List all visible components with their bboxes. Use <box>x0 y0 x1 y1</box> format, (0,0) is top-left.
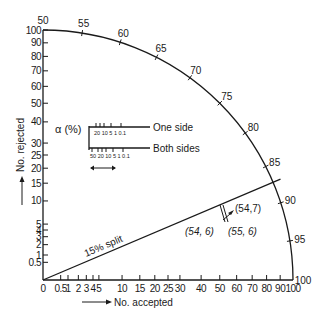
arc-tick-label: 50 <box>37 15 49 26</box>
arc-tick-label: 65 <box>155 43 167 54</box>
x-tick-label: 2 <box>76 283 82 294</box>
x-tick-label: 5 <box>96 283 102 294</box>
arc-tick-label: 90 <box>285 195 297 206</box>
x-tick-label: 10 <box>117 283 128 294</box>
y-tick-label: 20 <box>31 163 42 174</box>
x-tick-label: 25 <box>163 283 174 294</box>
x-axis-arrow-icon <box>82 300 112 305</box>
both-sides-label: Both sides <box>153 143 200 154</box>
point-label-55-6: (55, 6) <box>228 226 257 237</box>
x-tick-label: 30 <box>175 283 186 294</box>
arc-tick-label: 100 <box>295 275 312 286</box>
y-tick-label: 50 <box>31 98 42 109</box>
x-tick-label: 20 <box>150 283 161 294</box>
arc-tick-label: 75 <box>221 91 233 102</box>
one-side-ticks: 20 10 5 1 0.1 <box>94 130 126 136</box>
x-tick-label: 40 <box>196 283 207 294</box>
x-tick-label: 0 <box>40 283 46 294</box>
y-axis-title: No. rejected <box>15 118 26 172</box>
one-side-label: One side <box>153 122 193 133</box>
y-tick-label: 40 <box>31 116 42 127</box>
y-tick-label: 60 <box>31 81 42 92</box>
binomial-probability-chart: 00.5123451015202530405060708090100 0.512… <box>0 0 328 321</box>
x-tick-label: 3 <box>84 283 90 294</box>
x-tick-label: 60 <box>232 283 243 294</box>
y-tick-label: 30 <box>31 138 42 149</box>
both-sides-ticks: 50 20 10 5 1 0.1 <box>90 153 130 159</box>
alpha-scale-inset: α (%) One side 20 10 5 1 0.1 Both sides … <box>55 122 200 171</box>
alpha-label: α (%) <box>55 123 82 135</box>
y-tick-label: 70 <box>31 65 42 76</box>
quarter-circle-arc <box>43 30 293 280</box>
y-tick-label: 1 <box>36 250 42 261</box>
arc-tick-label: 80 <box>248 122 260 133</box>
x-axis-title: No. accepted <box>114 297 173 308</box>
arc-tick-label: 85 <box>269 157 281 168</box>
y-axis-ticks: 0.5123451015202530405060708090100 <box>26 25 48 268</box>
y-tick-label: 5 <box>36 219 42 230</box>
y-tick-label: 10 <box>31 195 42 206</box>
x-tick-label: 70 <box>247 283 258 294</box>
double-arrow-icon <box>90 166 116 171</box>
arrow-icon <box>228 210 234 215</box>
arc-tick-label: 60 <box>118 28 130 39</box>
point-label-54-7: (54,7) <box>235 203 261 214</box>
x-tick-label: 80 <box>262 283 273 294</box>
data-points: (54,7) (54, 6) (55, 6) <box>185 203 261 237</box>
arc-tick-label: 55 <box>78 18 90 29</box>
x-tick-label: 50 <box>215 283 226 294</box>
y-tick-label: 25 <box>31 150 42 161</box>
arc-tick-label: 95 <box>294 234 306 245</box>
axes <box>43 30 293 280</box>
x-tick-label: 1 <box>65 283 71 294</box>
y-tick-label: 100 <box>26 25 42 36</box>
y-tick-label: 80 <box>31 51 42 62</box>
point-label-54-6: (54, 6) <box>185 226 214 237</box>
y-tick-label: 90 <box>31 37 42 48</box>
arc-tick-label: 70 <box>190 65 202 76</box>
x-axis-ticks: 00.5123451015202530405060708090100 <box>40 275 301 294</box>
y-axis-arrow-icon <box>20 176 25 205</box>
x-tick-label: 15 <box>135 283 146 294</box>
y-tick-label: 15 <box>31 178 42 189</box>
